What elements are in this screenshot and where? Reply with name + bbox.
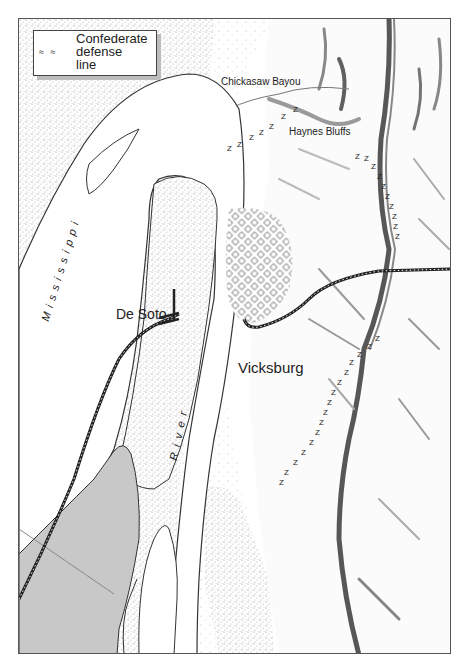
- map-frame: ZZZZ ZZZ ZZ ZZZZ ZZZZ ZZZZ ZZZZ ZZZZ ZZZ…: [18, 18, 451, 654]
- label-haynes-bluffs: Haynes Bluffs: [289, 126, 351, 137]
- svg-text:Z: Z: [395, 232, 400, 241]
- svg-text:Z: Z: [344, 368, 349, 377]
- svg-text:Z: Z: [371, 162, 376, 171]
- svg-text:Z: Z: [375, 334, 380, 343]
- svg-text:Z: Z: [309, 438, 314, 447]
- svg-text:Z: Z: [284, 468, 289, 477]
- svg-text:Z: Z: [331, 388, 336, 397]
- svg-text:Z: Z: [279, 478, 284, 487]
- legend-label: Confederate defense line: [76, 32, 148, 71]
- svg-text:Z: Z: [389, 202, 394, 211]
- svg-text:Z: Z: [293, 105, 298, 114]
- svg-text:Z: Z: [327, 398, 332, 407]
- svg-text:Z: Z: [385, 192, 390, 201]
- svg-text:Z: Z: [249, 133, 254, 142]
- svg-text:Z: Z: [355, 152, 360, 161]
- svg-text:Z: Z: [301, 448, 306, 457]
- svg-text:Z: Z: [377, 172, 382, 181]
- hills-region: [249, 19, 451, 654]
- svg-text:Z: Z: [349, 358, 354, 367]
- svg-text:Z: Z: [237, 140, 242, 149]
- svg-text:Z: Z: [392, 212, 397, 221]
- svg-text:Z: Z: [319, 418, 324, 427]
- svg-text:Z: Z: [315, 428, 320, 437]
- svg-text:Z: Z: [337, 378, 342, 387]
- svg-text:Z: Z: [281, 112, 286, 121]
- svg-text:Z: Z: [227, 144, 232, 153]
- svg-text:Z: Z: [381, 182, 386, 191]
- svg-text:Z: Z: [259, 128, 264, 137]
- map-canvas: ZZZZ ZZZ ZZ ZZZZ ZZZZ ZZZZ ZZZZ ZZZZ ZZZ…: [19, 19, 451, 654]
- svg-text:Z: Z: [393, 222, 398, 231]
- legend: ≈ ≈ Confederate defense line: [33, 30, 157, 76]
- svg-text:Z: Z: [367, 342, 372, 351]
- svg-text:Z: Z: [293, 458, 298, 467]
- label-vicksburg: Vicksburg: [238, 359, 304, 376]
- label-chickasaw-bayou: Chickasaw Bayou: [221, 76, 300, 87]
- defense-line-icon: ≈ ≈: [39, 47, 57, 57]
- svg-text:Z: Z: [323, 408, 328, 417]
- svg-text:Z: Z: [357, 350, 362, 359]
- svg-text:Z: Z: [364, 154, 369, 163]
- svg-text:Z: Z: [269, 122, 274, 131]
- label-de-soto: De Soto: [116, 306, 167, 322]
